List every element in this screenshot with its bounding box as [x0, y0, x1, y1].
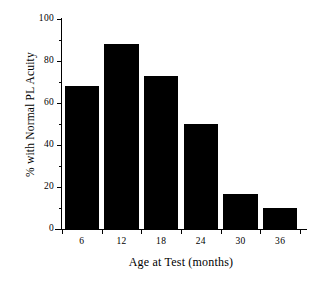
- y-axis-tick-label: 40: [44, 140, 54, 150]
- y-axis-title: % with Normal PL Acuity: [20, 0, 40, 229]
- x-axis-tick-label: 12: [116, 237, 126, 247]
- x-axis-tick: [62, 229, 63, 234]
- x-axis-tick: [181, 229, 182, 234]
- y-axis-tick-label: 80: [44, 56, 54, 66]
- bar: [263, 208, 298, 229]
- bar: [65, 86, 100, 229]
- x-axis-tick: [102, 229, 103, 234]
- bar: [184, 124, 219, 229]
- x-axis-tick-label: 6: [79, 237, 84, 247]
- plot-area: 02040608010061218243036: [62, 19, 300, 229]
- y-axis-tick: [57, 103, 62, 104]
- bar: [223, 194, 258, 229]
- y-axis-minor-tick: [59, 208, 62, 209]
- y-axis-tick-label: 20: [44, 182, 54, 192]
- bar: [144, 76, 179, 229]
- y-axis-tick-label: 100: [39, 14, 54, 24]
- y-axis-tick-label: 60: [44, 98, 54, 108]
- y-axis-tick: [57, 19, 62, 20]
- x-axis-tick-label: 24: [196, 237, 206, 247]
- x-axis-tick-label: 18: [156, 237, 166, 247]
- x-axis-tick: [260, 229, 261, 234]
- y-axis-minor-tick: [59, 40, 62, 41]
- y-axis-minor-tick: [59, 166, 62, 167]
- bar: [104, 44, 139, 229]
- y-axis-tick-label: 0: [49, 224, 54, 234]
- x-axis-tick-label: 30: [235, 237, 245, 247]
- x-axis-tick: [300, 229, 301, 234]
- y-axis-tick: [57, 61, 62, 62]
- x-axis-tick: [221, 229, 222, 234]
- x-axis-tick-label: 36: [275, 237, 285, 247]
- y-axis-tick: [57, 187, 62, 188]
- x-axis-tick: [141, 229, 142, 234]
- bar-chart-figure: % with Normal PL Acuity 0204060801006121…: [0, 0, 318, 281]
- x-axis-title: Age at Test (months): [55, 254, 307, 270]
- y-axis-minor-tick: [59, 82, 62, 83]
- y-axis-tick: [57, 145, 62, 146]
- y-axis-minor-tick: [59, 124, 62, 125]
